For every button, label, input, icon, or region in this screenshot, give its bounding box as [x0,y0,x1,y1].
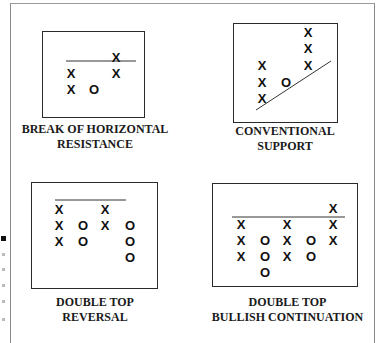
x-mark: X [280,234,294,248]
panel-label-line1: DOUBLE TOP [205,295,370,310]
x-mark: X [234,234,248,248]
x-mark: X [326,202,340,216]
panel-label-line2: BULLISH CONTINUATION [205,310,370,325]
x-mark: X [326,218,340,232]
x-mark: X [280,218,294,232]
x-mark: X [280,250,294,264]
x-mark: X [234,218,248,232]
o-mark: O [258,266,272,280]
o-mark: O [258,234,272,248]
o-mark: O [258,250,272,264]
o-mark: O [304,234,318,248]
x-mark: X [326,234,340,248]
o-mark: O [304,250,318,264]
x-mark: X [234,250,248,264]
